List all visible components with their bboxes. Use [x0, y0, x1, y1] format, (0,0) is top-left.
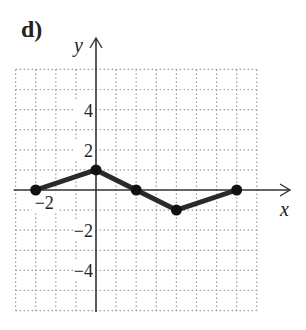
data-point [30, 185, 41, 196]
y-tick-label: 4 [84, 101, 93, 121]
x-axis-label: x [279, 198, 289, 220]
y-tick-label: −4 [74, 261, 93, 281]
y-tick-label: 2 [84, 141, 93, 161]
data-point [231, 185, 242, 196]
data-point [171, 205, 182, 216]
data-point [91, 164, 102, 175]
x-tick-label: −2 [35, 193, 54, 213]
y-tick-label: −2 [74, 221, 93, 241]
data-point [131, 185, 142, 196]
y-axis-label: y [72, 34, 83, 57]
coordinate-plane: xy42−2−4−2 [0, 0, 306, 330]
